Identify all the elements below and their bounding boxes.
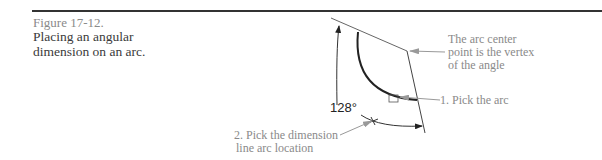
dimension-value: 128° <box>330 101 357 114</box>
leader-vertex <box>410 51 445 52</box>
pick-arc-note: 1. Pick the arc <box>440 94 509 107</box>
dimension-arc-lower <box>361 115 422 126</box>
vertex-note: The arc center point is the vertex of th… <box>448 33 534 72</box>
angle-side-right <box>407 51 425 133</box>
dimension-arc-upper <box>337 26 339 105</box>
leader-pick-location <box>340 121 372 135</box>
pick-location-note: 2. Pick the dimension line arc location <box>230 129 338 155</box>
angle-side-top <box>331 18 407 51</box>
